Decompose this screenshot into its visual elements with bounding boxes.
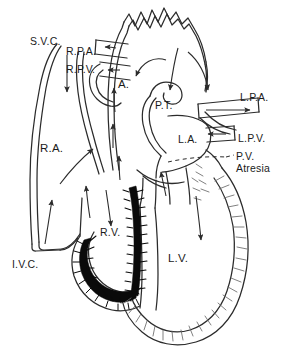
arrow-rv-outflow	[119, 156, 120, 180]
rv-thickened-endocardium	[73, 186, 148, 310]
arrow-arch-curve-left	[136, 59, 166, 76]
arrow-lv-inflow	[196, 196, 201, 240]
heart-outline-group	[30, 8, 259, 345]
flow-arrows-group	[45, 47, 250, 244]
pv-atresia-leader	[168, 155, 234, 162]
label-svc: S.V.C.	[30, 36, 61, 47]
heart-anatomy-drawing	[0, 0, 285, 360]
arrow-rpa-retrograde	[105, 47, 116, 48]
arrow-ra-shunt	[60, 149, 93, 184]
annotation-pv-atresia: P.V. Atresia	[236, 151, 270, 175]
label-rpa: R.P.A.	[66, 46, 96, 57]
pulmonary-trunk-vessel	[142, 82, 182, 178]
arrow-rv-inflow	[106, 190, 111, 226]
label-ra: R.A.	[40, 142, 63, 154]
label-lv: L.V.	[168, 252, 188, 264]
label-ivc: I.V.C.	[12, 259, 39, 270]
arrow-ivc-inflow	[45, 200, 52, 244]
arrow-lv-to-aorta	[161, 172, 166, 196]
av-valve-plane	[137, 168, 190, 208]
label-pulmonary-trunk: P.T.	[155, 100, 173, 111]
annotation-pv-atresia-line1: P.V.	[236, 151, 270, 163]
annotation-pv-atresia-line2: Atresia	[236, 163, 270, 175]
label-lpa: L.P.A.	[240, 92, 268, 103]
label-lpv: L.P.V.	[238, 133, 265, 144]
label-rv: R.V.	[100, 227, 120, 238]
label-rpv: R.P.V.	[66, 64, 95, 75]
heart-diagram-figure: S.V.C. R.P.A. R.P.V. A. P.T. L.P.A. L.A.…	[0, 0, 285, 360]
interventricular-septum	[140, 206, 158, 310]
arrow-ra-to-rv-up	[86, 186, 90, 218]
label-la: L.A.	[178, 134, 197, 145]
label-aorta: A.	[118, 78, 129, 90]
